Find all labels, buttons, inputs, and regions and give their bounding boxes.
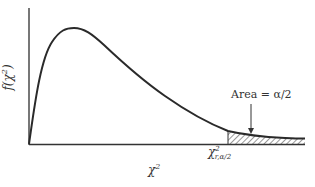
critical-value-label: χ2r,α/2: [208, 145, 231, 161]
area-annotation: Area = α/2: [231, 88, 292, 101]
chi-square-figure: f(χ2) χ2 χ2r,α/2 Area = α/2: [0, 0, 315, 187]
shaded-tail-region: [228, 125, 308, 145]
x-axis-label: χ2: [148, 162, 160, 177]
arrow-head-icon: [248, 128, 254, 134]
density-curve: [29, 28, 305, 144]
y-axis-label: f(χ2): [0, 64, 15, 90]
